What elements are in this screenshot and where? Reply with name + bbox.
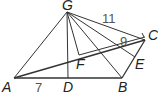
segment-GD xyxy=(67,12,68,78)
label-G: G xyxy=(62,0,73,13)
label-A: A xyxy=(1,79,11,95)
segment-FC xyxy=(79,37,145,55)
measure-AD: 7 xyxy=(35,80,42,95)
label-E: E xyxy=(135,56,145,72)
segment-GA xyxy=(14,12,67,78)
label-D: D xyxy=(63,79,73,95)
measure-FC: 9 xyxy=(120,34,127,49)
geometry-figure: G A D B C E F 11 9 7 xyxy=(0,0,158,100)
measure-GC: 11 xyxy=(102,11,116,26)
label-B: B xyxy=(118,79,127,95)
label-F: F xyxy=(76,56,86,72)
right-angle-marker xyxy=(142,33,144,37)
label-C: C xyxy=(148,27,158,43)
